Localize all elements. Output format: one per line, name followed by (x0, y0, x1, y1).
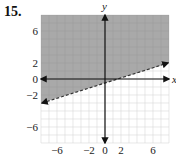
y-tick-label: 2 (33, 57, 39, 69)
y-tick-label: 0 (33, 73, 39, 85)
x-tick-label: −2 (83, 144, 95, 156)
x-tick-label: −6 (51, 144, 63, 156)
y-tick-label: −2 (26, 89, 38, 101)
y-tick-label: −6 (26, 121, 38, 133)
y-axis-label: y (101, 0, 107, 12)
inequality-graph: x y −6−2026 620−2−6 (0, 0, 176, 158)
y-tick-labels: 620−2−6 (26, 25, 38, 133)
x-tick-label: 2 (118, 144, 124, 156)
x-tick-label: 6 (150, 144, 156, 156)
x-axis-label: x (171, 73, 176, 85)
x-tick-labels: −6−2026 (51, 144, 156, 156)
y-tick-label: 6 (33, 25, 39, 37)
x-tick-label: 0 (102, 144, 108, 156)
